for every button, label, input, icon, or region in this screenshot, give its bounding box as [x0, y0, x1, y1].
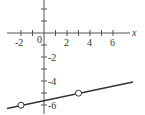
x-tick-label-6: 6	[110, 37, 115, 48]
y-tick-label-neg6: -6	[48, 100, 56, 111]
data-line	[7, 82, 133, 109]
x-tick-label-2: 2	[64, 37, 69, 48]
origin-label: 0	[37, 34, 42, 45]
y-tick-label-neg4: -4	[48, 76, 56, 87]
x-tick-label-4: 4	[87, 37, 92, 48]
open-point-neg2-neg6	[18, 102, 24, 108]
line-chart: x -2 0 2 4 6 -2 -4 -6	[0, 0, 145, 115]
x-axis-label: x	[131, 27, 137, 38]
open-point-3-neg5	[76, 90, 82, 96]
x-tick-label-neg2: -2	[15, 37, 23, 48]
y-tick-label-neg2: -2	[48, 52, 56, 63]
